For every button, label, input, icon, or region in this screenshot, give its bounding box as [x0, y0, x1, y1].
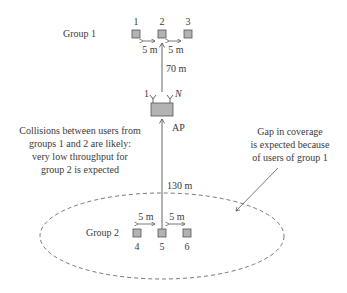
user-1-label: 1 [134, 16, 139, 28]
user-3-label: 3 [186, 16, 191, 28]
collisions-line-1: Collisions between users from [5, 124, 155, 137]
user-4-label: 4 [135, 241, 140, 253]
gap-line-3: of users of group 1 [240, 151, 340, 164]
gap-annotation: Gap in coverage is expected because of u… [240, 125, 340, 164]
group1-distance-label: 70 m [166, 63, 186, 75]
collisions-line-3: very low throughput for [5, 150, 155, 163]
antenna-last-label: N [175, 88, 182, 100]
collisions-annotation: Collisions between users from groups 1 a… [5, 124, 155, 176]
ap-box [151, 103, 173, 116]
collisions-line-4: group 2 is expected [5, 163, 155, 176]
user-2-box [158, 30, 166, 38]
user-5-label: 5 [160, 241, 165, 253]
gap-line-2: is expected because [240, 138, 340, 151]
group2-distance-label: 130 m [167, 180, 192, 192]
user-2-label: 2 [160, 16, 165, 28]
gap-line-1: Gap in coverage [240, 125, 340, 138]
antenna-first-label: 1 [144, 88, 149, 100]
group2-spacing-left-label: 5 m [138, 211, 153, 223]
user-5-box [158, 229, 166, 237]
group2-spacing-right-label: 5 m [169, 211, 184, 223]
gap-pointer-arrow [236, 168, 278, 211]
antenna-icon [150, 95, 173, 103]
collisions-line-2: groups 1 and 2 are likely: [5, 137, 155, 150]
ap-label: AP [172, 122, 185, 134]
user-6-box [183, 229, 191, 237]
group1-spacing-left-label: 5 m [142, 44, 157, 56]
group2-label: Group 2 [86, 227, 119, 239]
user-3-box [184, 30, 192, 38]
user-1-box [132, 30, 140, 38]
group1-spacing-right-label: 5 m [168, 44, 183, 56]
user-6-label: 6 [185, 241, 190, 253]
user-4-box [133, 229, 141, 237]
group1-label: Group 1 [63, 28, 96, 40]
